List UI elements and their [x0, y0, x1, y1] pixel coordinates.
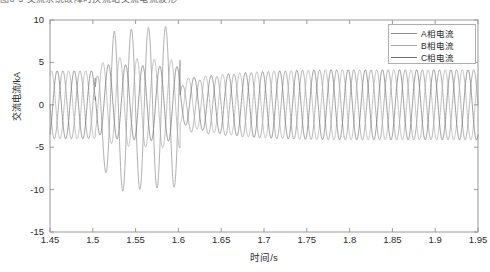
x-tick-label: 1.55 — [116, 234, 156, 245]
x-tick-label: 1.6 — [158, 234, 198, 245]
x-tick-label: 1.95 — [458, 234, 490, 245]
legend-label-b: B相电流 — [421, 39, 454, 51]
x-tick-label: 1.85 — [372, 234, 412, 245]
x-tick-label: 1.65 — [201, 234, 241, 245]
y-tick-label: -10 — [14, 184, 44, 195]
legend-label-c: C相电流 — [421, 51, 454, 63]
x-tick-label: 1.9 — [415, 234, 455, 245]
y-tick-label: -5 — [14, 141, 44, 152]
x-tick-label: 1.75 — [287, 234, 327, 245]
legend-item: A相电流 — [389, 27, 475, 39]
y-tick-label: 0 — [14, 99, 44, 110]
legend-line-swatch-a — [391, 33, 417, 34]
legend: A相电流 B相电流 C相电流 — [388, 24, 476, 64]
y-tick-label: 10 — [14, 14, 44, 25]
current-waveform-figure: 交流电流/kA 时间/s 1.451.51.551.61.651.71.751.… — [0, 0, 490, 272]
y-tick-label: -15 — [14, 226, 44, 237]
x-tick-label: 1.7 — [244, 234, 284, 245]
legend-line-swatch-b — [391, 45, 417, 46]
x-tick-label: 1.5 — [73, 234, 113, 245]
legend-item: C相电流 — [389, 51, 475, 63]
y-tick-label: 5 — [14, 56, 44, 67]
x-axis-label: 时间/s — [50, 250, 478, 264]
legend-line-swatch-c — [391, 57, 417, 58]
legend-item: B相电流 — [389, 39, 475, 51]
legend-label-a: A相电流 — [421, 27, 454, 39]
x-tick-label: 1.8 — [330, 234, 370, 245]
